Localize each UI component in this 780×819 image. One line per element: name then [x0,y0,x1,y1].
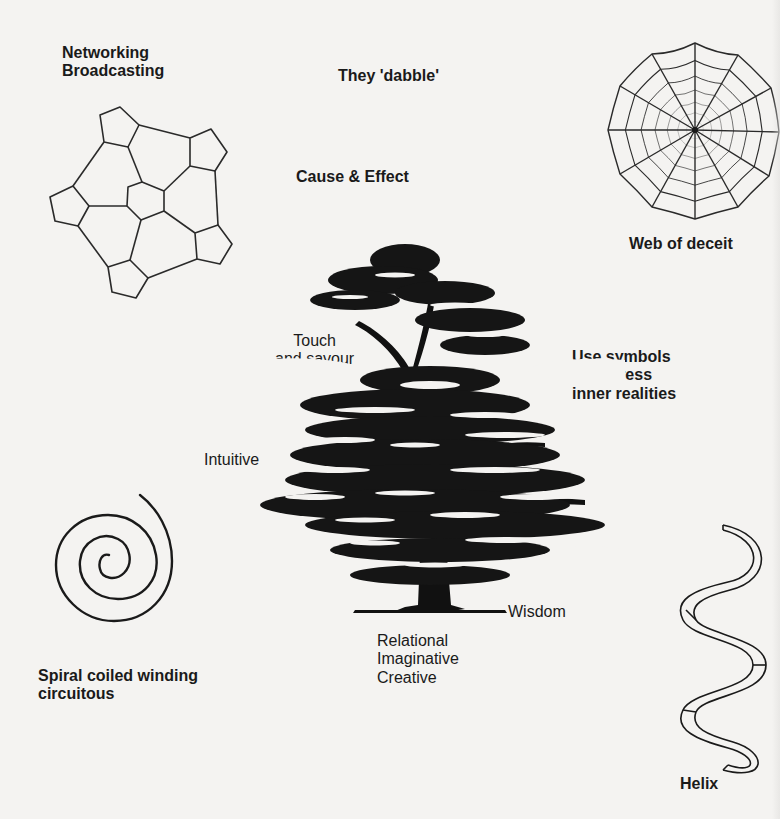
spider-web-icon [607,38,780,222]
relational-label: Relational Imaginative Creative [377,632,459,687]
relational-line-3: Creative [377,669,459,687]
cedar-tree-icon [255,235,625,615]
helix-label: Helix [680,775,718,793]
relational-line-1: Relational [377,632,459,650]
web-of-deceit-label: Web of deceit [629,235,733,253]
spiral-line-2: circuitous [38,685,198,703]
dabble-label: They 'dabble' [338,67,439,85]
relational-line-2: Imaginative [377,650,459,668]
spiral-line-1: Spiral coiled winding [38,667,198,685]
helix-ribbon-icon [668,520,768,770]
spiral-icon [44,495,184,635]
cause-effect-label: Cause & Effect [296,168,409,186]
intuitive-label: Intuitive [204,451,259,469]
pentagon-network-icon [40,60,240,310]
spiral-label: Spiral coiled winding circuitous [38,667,198,704]
page-edge-shadow [772,0,780,819]
